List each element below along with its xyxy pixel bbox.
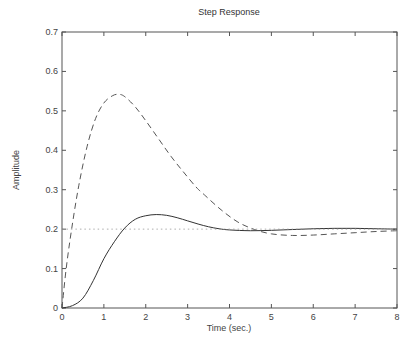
x-tick-label: 6 <box>311 312 316 322</box>
x-tick-label: 8 <box>394 312 399 322</box>
x-tick-label: 1 <box>101 312 106 322</box>
plot-area: 012345678 00.10.20.30.40.50.60.7 <box>45 27 399 322</box>
step-response-chart: Step Response 012345678 00.10.20.30.40.5… <box>0 0 409 345</box>
y-tick-label: 0.2 <box>45 224 58 234</box>
y-axis-label: Amplitude <box>11 150 21 190</box>
x-tick-label: 3 <box>185 312 190 322</box>
y-tick-label: 0 <box>53 303 58 313</box>
y-tick-label: 0.4 <box>45 145 58 155</box>
axes-frame <box>62 32 397 308</box>
y-tick-label: 0.1 <box>45 264 58 274</box>
x-tick-label: 7 <box>353 312 358 322</box>
x-tick-label: 5 <box>269 312 274 322</box>
y-tick-label: 0.7 <box>45 27 58 37</box>
y-tick-label: 0.5 <box>45 106 58 116</box>
chart-title: Step Response <box>198 7 260 17</box>
y-tick-label: 0.6 <box>45 66 58 76</box>
x-axis-label: Time (sec.) <box>207 323 252 333</box>
y-tick-label: 0.3 <box>45 185 58 195</box>
x-tick-label: 0 <box>59 312 64 322</box>
x-tick-label: 4 <box>227 312 232 322</box>
x-tick-label: 2 <box>143 312 148 322</box>
